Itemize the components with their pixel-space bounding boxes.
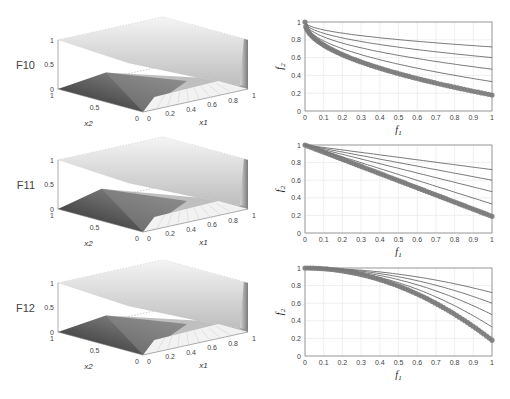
x-tick-label: 0.8 (450, 359, 460, 366)
x2-tick-label: 0 (135, 358, 139, 365)
pareto-point (489, 338, 494, 343)
x2-tick-label: 0.5 (90, 224, 100, 231)
x-tick-label: 0.4 (375, 359, 385, 366)
x-tick-label: 0.5 (394, 359, 404, 366)
x-tick-label: 0.4 (375, 236, 385, 243)
x2-tick-label: 1 (50, 92, 54, 99)
x1-tick-label: 0 (147, 115, 151, 122)
pareto-point (489, 214, 494, 219)
y-tick-label: 0.2 (291, 335, 301, 342)
y-axis-label: f2 (274, 185, 287, 192)
x-axis-label: f1 (395, 369, 401, 382)
x-tick-label: 0.4 (375, 114, 385, 121)
x2-tick-label: 1 (50, 335, 54, 342)
surface-svg: 00.5110.5000.20.40.60.81x2x1F11 (0, 130, 260, 260)
x1-tick-label: 1 (252, 212, 256, 219)
x1-tick-label: 0.4 (186, 226, 196, 233)
y-tick-label: 0.4 (291, 317, 301, 324)
front-plot-f11: 00.10.20.30.40.50.60.70.80.9100.20.40.60… (260, 130, 510, 260)
y-tick-label: 0.8 (291, 36, 301, 43)
x1-tick-label: 0 (147, 235, 151, 242)
x2-axis-label: x2 (83, 119, 93, 128)
x2-axis-label: x2 (83, 362, 93, 371)
x1-tick-label: 1 (252, 92, 256, 99)
x2-tick-label: 0 (135, 115, 139, 122)
x2-tick-label: 0.5 (90, 104, 100, 111)
z-tick-label: 1 (50, 37, 54, 44)
x-tick-label: 0 (303, 236, 307, 243)
z-tick-label: 0.5 (44, 61, 54, 68)
x1-tick-label: 0.4 (186, 106, 196, 113)
z-tick-label: 0.5 (44, 304, 54, 311)
surface-svg: 00.5110.5000.20.40.60.81x2x1F10 (0, 0, 260, 130)
surface-plot-f11: 00.5110.5000.20.40.60.81x2x1F11 (0, 130, 260, 260)
y-tick-label: 0.6 (291, 54, 301, 61)
y-tick-label: 0 (297, 353, 301, 360)
x-tick-label: 0.6 (412, 236, 422, 243)
x-tick-label: 0.5 (394, 114, 404, 121)
x-tick-label: 0.3 (356, 236, 366, 243)
x1-tick-label: 0.6 (207, 221, 217, 228)
x-tick-label: 0.2 (338, 114, 348, 121)
function-label: F11 (17, 179, 35, 191)
y-tick-label: 0.4 (291, 72, 301, 79)
front-svg: 00.10.20.30.40.50.60.70.80.9100.20.40.60… (260, 0, 510, 135)
front-svg: 00.10.20.30.40.50.60.70.80.9100.20.40.60… (260, 130, 510, 260)
x-tick-label: 0.6 (412, 359, 422, 366)
front-svg: 00.10.20.30.40.50.60.70.80.9100.20.40.60… (260, 260, 510, 399)
x-tick-label: 0 (303, 359, 307, 366)
y-tick-label: 0.2 (291, 212, 301, 219)
y-tick-label: 1 (297, 142, 301, 149)
front-plot-f12: 00.10.20.30.40.50.60.70.80.9100.20.40.60… (260, 260, 510, 399)
y-tick-label: 0.8 (291, 159, 301, 166)
x-tick-label: 0.7 (431, 236, 441, 243)
y-tick-label: 0.4 (291, 194, 301, 201)
y-tick-label: 0 (297, 108, 301, 115)
x1-tick-label: 0.4 (186, 349, 196, 356)
z-tick-label: 1 (50, 157, 54, 164)
x-tick-label: 0.5 (394, 236, 404, 243)
surface-plot-f10: 00.5110.5000.20.40.60.81x2x1F10 (0, 0, 260, 130)
x-tick-label: 0.1 (319, 359, 329, 366)
x-tick-label: 0.2 (338, 359, 348, 366)
y-tick-label: 0.6 (291, 177, 301, 184)
x1-tick-label: 0.8 (228, 97, 238, 104)
x-axis-label: f1 (395, 246, 401, 259)
function-label: F10 (16, 59, 35, 71)
x-tick-label: 0.8 (450, 114, 460, 121)
y-tick-label: 0.6 (291, 300, 301, 307)
x-tick-label: 1 (490, 114, 494, 121)
y-tick-label: 0.8 (291, 282, 301, 289)
x1-tick-label: 0.6 (207, 344, 217, 351)
x1-tick-label: 1 (252, 335, 256, 342)
pareto-point (489, 92, 494, 97)
x-tick-label: 0 (303, 114, 307, 121)
x1-axis-label: x1 (198, 238, 207, 247)
surface-plot-f12: 00.5110.5000.20.40.60.81x2x1F12 (0, 260, 260, 399)
x-tick-label: 1 (490, 359, 494, 366)
front-plot-f10: 00.10.20.30.40.50.60.70.80.9100.20.40.60… (260, 0, 510, 135)
x-tick-label: 0.3 (356, 359, 366, 366)
x2-axis-label: x2 (83, 239, 93, 248)
x-tick-label: 0.1 (319, 114, 329, 121)
x-tick-label: 0.9 (468, 236, 478, 243)
x-tick-label: 1 (490, 236, 494, 243)
x-tick-label: 0.8 (450, 236, 460, 243)
x1-tick-label: 0.8 (228, 340, 238, 347)
x1-tick-label: 0 (147, 358, 151, 365)
y-axis-label: f2 (274, 308, 287, 315)
x-tick-label: 0.9 (468, 114, 478, 121)
x-tick-label: 0.2 (338, 236, 348, 243)
pareto-point (302, 19, 307, 24)
x1-axis-label: x1 (198, 361, 207, 370)
function-label: F12 (16, 302, 35, 314)
y-tick-label: 0 (297, 230, 301, 237)
z-tick-label: 1 (50, 280, 54, 287)
x1-axis-label: x1 (198, 118, 207, 127)
x-tick-label: 0.1 (319, 236, 329, 243)
y-axis-label: f2 (274, 63, 287, 70)
x-tick-label: 0.7 (431, 114, 441, 121)
y-tick-label: 1 (297, 265, 301, 272)
x2-tick-label: 0.5 (90, 347, 100, 354)
x1-tick-label: 0.2 (165, 353, 175, 360)
